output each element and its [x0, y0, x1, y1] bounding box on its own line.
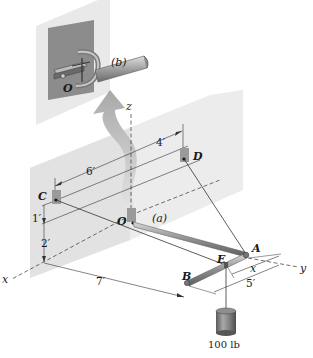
anchor-o [127, 208, 136, 222]
z-axis-label: z [125, 100, 132, 113]
inset-point-o-label: O [63, 82, 73, 95]
dim-6ft-label: 6′ [86, 165, 96, 177]
y-axis-label: y [299, 262, 307, 275]
dim-x-label: x [250, 262, 257, 275]
figure-a-label: (a) [152, 212, 167, 225]
dim-2ft-label: 2′ [41, 237, 51, 249]
rod-oa [133, 222, 246, 257]
weight-cylinder-icon [216, 308, 236, 336]
point-b-label: B [181, 270, 191, 283]
inset-b-label: (b) [111, 56, 127, 69]
load-label: 100 lb [208, 339, 240, 350]
dim-5ft-label: 5′ [246, 277, 256, 289]
point-c-label: C [38, 190, 47, 203]
point-a-label: A [251, 242, 261, 255]
dim-7ft [44, 263, 184, 297]
point-e-label: E [216, 253, 226, 266]
point-o-label: O [117, 215, 127, 228]
dim-7ft-label: 7′ [96, 275, 106, 287]
dim-4ft-label: 4′ [156, 136, 166, 148]
x-axis-label: x [2, 273, 9, 286]
statics-diagram: O (b) z x y 6′ 4′ 1′ 2′ C D O (a) 7′ [0, 0, 313, 358]
wall-plane-shade [30, 128, 130, 278]
dim-1ft-label: 1′ [32, 212, 42, 224]
point-d-label: D [192, 150, 203, 163]
anchor-c [52, 190, 61, 204]
